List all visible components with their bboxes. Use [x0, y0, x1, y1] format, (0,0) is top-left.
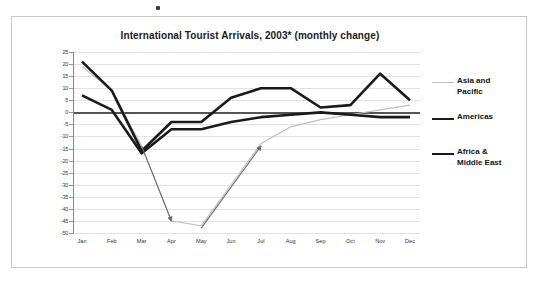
legend-entry-asia-and-pacific: Asia and Pacific: [432, 76, 528, 97]
chart-legend: Asia and PacificAmericasAfrica & Middle …: [432, 76, 528, 183]
legend-entry-africa-middle-east: Africa & Middle East: [432, 147, 528, 168]
legend-label: Africa & Middle East: [457, 147, 528, 168]
legend-entry-americas: Americas: [432, 112, 528, 132]
legend-label: Asia and Pacific: [457, 76, 528, 97]
series-line-americas: [82, 95, 410, 153]
chart-container: International Tourist Arrivals, 2003* (m…: [0, 0, 549, 284]
recovery-arrow: [201, 146, 261, 228]
decline-arrow: [142, 146, 172, 221]
legend-label: Americas: [457, 112, 528, 123]
legend-swatch-icon: [432, 118, 454, 120]
legend-swatch-icon: [432, 82, 454, 83]
series-line-asia-and-pacific: [82, 66, 410, 225]
legend-swatch-icon: [432, 153, 454, 155]
